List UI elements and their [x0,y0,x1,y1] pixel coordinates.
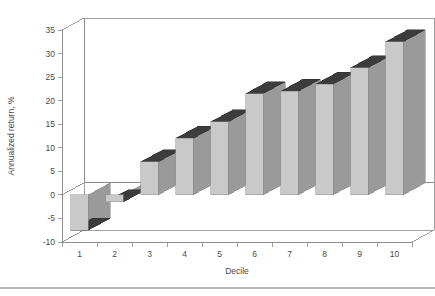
y-tick-label-5: 5 [50,166,55,176]
y-axis-title: Annualized return, % [6,96,16,175]
bar-front-face [281,91,299,195]
x-tick-label-2: 2 [112,249,117,259]
bar-4 [176,126,216,195]
chart-figure: -10-50510152025303512345678910DecileAnnu… [0,0,435,296]
x-axis-title: Decile [225,266,249,276]
y-tick-label-0: 0 [50,190,55,200]
x-tick-label-7: 7 [287,249,292,259]
bar-5 [211,110,251,195]
bar-front-face [71,195,89,230]
bar-front-face [176,138,194,195]
bar-8 [316,72,356,195]
x-tick-label-3: 3 [147,249,152,259]
bar-chart-3d: -10-50510152025303512345678910DecileAnnu… [0,0,435,296]
bar-7 [281,79,321,195]
y-tick-label-35: 35 [46,25,56,35]
y-tick-label--5: -5 [47,213,55,223]
bottom-floor [62,230,434,242]
x-tick-label-5: 5 [217,249,222,259]
bar-6 [246,82,286,195]
x-tick-label-10: 10 [390,249,400,259]
bar-front-face [386,42,404,195]
bar-9 [351,56,391,195]
y-tick-label-25: 25 [46,72,56,82]
x-tick-label-9: 9 [357,249,362,259]
bar-front-face [141,162,159,195]
bar-front-face [106,195,124,202]
y-tick-label-20: 20 [46,96,56,106]
x-tick-label-8: 8 [322,249,327,259]
bar-front-face [246,94,264,195]
y-tick-label-10: 10 [46,143,56,153]
bar-front-face [316,84,334,195]
y-tick-label--10: -10 [43,237,56,247]
bar-10 [386,30,426,195]
bar-front-face [211,122,229,195]
left-wall [62,18,84,195]
x-tick-label-6: 6 [252,249,257,259]
y-tick-label-30: 30 [46,49,56,59]
bar-front-face [351,68,369,195]
x-tick-label-1: 1 [77,249,82,259]
bar-side-face [403,30,425,195]
x-tick-label-4: 4 [182,249,187,259]
y-tick-label-15: 15 [46,119,56,129]
